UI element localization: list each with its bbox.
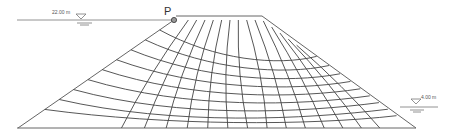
upstream-water-line xyxy=(17,14,172,25)
flow-net-diagram xyxy=(0,0,449,136)
downstream-level-label: 4.00 m xyxy=(421,94,436,100)
equipotential-line xyxy=(288,39,361,128)
equipotential-line xyxy=(187,20,213,128)
upstream-level-label: 22.00 m xyxy=(52,9,70,15)
equipotential-line xyxy=(238,20,247,128)
point-p-marker xyxy=(171,17,176,22)
flow-net-grid xyxy=(45,20,397,128)
equipotential-line xyxy=(247,20,267,128)
downstream-water-line xyxy=(400,99,438,112)
dam-outline xyxy=(17,16,416,128)
equipotential-line xyxy=(226,20,230,128)
flow-line xyxy=(131,50,340,79)
point-p-label: P xyxy=(164,5,171,17)
flow-line xyxy=(45,109,397,122)
